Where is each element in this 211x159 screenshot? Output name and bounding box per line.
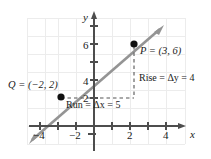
y-tick-label-6: 6 xyxy=(83,40,89,51)
rise-annotation-label: Rise = Δy = 4 xyxy=(139,73,195,83)
point-q-dot xyxy=(57,93,64,100)
point-p-label: P = (3, 6) xyxy=(140,46,181,57)
y-tick-label-4: 4 xyxy=(83,76,89,87)
slope-figure: y x −4 −2 2 4 6 4 2 P = (3, 6) Q = (−2, … xyxy=(0,0,211,159)
point-p-dot xyxy=(130,40,137,47)
y-axis-label: y xyxy=(83,12,88,23)
run-annotation-label: Run = Δx = 5 xyxy=(66,100,120,110)
point-q-label: Q = (−2, 2) xyxy=(8,80,58,91)
x-tick-label-neg2: −2 xyxy=(69,130,81,141)
x-tick-label-2: 2 xyxy=(127,130,133,141)
x-tick-label-4: 4 xyxy=(163,130,169,141)
x-tick-label-neg4: −4 xyxy=(33,130,45,141)
y-axis-arrow xyxy=(91,11,97,19)
x-axis-label: x xyxy=(190,129,195,140)
